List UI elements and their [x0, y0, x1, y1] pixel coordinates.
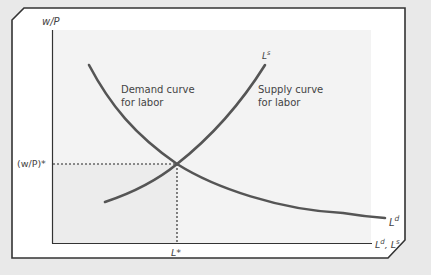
eq-wage-label: (w/P)* — [17, 158, 46, 169]
labor-market-diagram: w/P (w/P)* L* Ld Ls Ld, Ls Demand curve … — [0, 0, 431, 275]
x-axis-sep: , L — [385, 239, 396, 250]
y-axis-label: w/P — [42, 16, 61, 27]
x-axis-s: s — [396, 238, 400, 246]
eq-labor-label: L* — [171, 247, 181, 258]
supply-annotation-line1: Supply curve — [258, 84, 323, 95]
demand-annotation-line1: Demand curve — [121, 84, 195, 95]
demand-annotation-line2: for labor — [121, 97, 164, 108]
demand-end-sup: d — [395, 214, 400, 223]
supply-annotation-line2: for labor — [258, 97, 301, 108]
